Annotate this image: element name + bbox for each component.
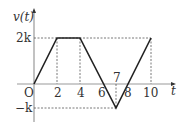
y-tick-neg-k: −k	[15, 101, 33, 115]
x-tick-4: 4	[77, 86, 85, 100]
velocity-time-graph: v(t) t 2k −k O 2 4 6 7 8 10	[0, 0, 183, 127]
x-axis-label: t	[171, 84, 176, 98]
v-t-line	[34, 38, 151, 108]
x-tick-2: 2	[54, 86, 62, 100]
x-tick-10: 10	[143, 86, 158, 100]
y-tick-2k: 2k	[16, 31, 32, 45]
origin-label: O	[24, 86, 34, 100]
y-axis-label: v(t)	[13, 10, 34, 24]
x-tick-6: 6	[98, 86, 106, 100]
x-tick-8: 8	[124, 86, 132, 100]
x-tick-7: 7	[113, 71, 121, 85]
